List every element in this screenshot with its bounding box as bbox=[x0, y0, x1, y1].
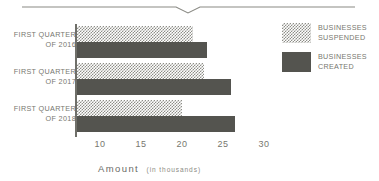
category-label-line1: First Quarter bbox=[14, 67, 76, 76]
plot-area bbox=[77, 24, 299, 136]
legend-label-line2: Created bbox=[318, 62, 367, 72]
x-axis-caption: Amount (in thousands) bbox=[0, 158, 299, 176]
x-tick-30: 30 bbox=[249, 139, 279, 149]
x-tick-20: 20 bbox=[167, 139, 197, 149]
category-label-line2: of 2018 bbox=[0, 114, 76, 124]
bar-created-2016 bbox=[77, 42, 207, 58]
x-tick-10: 10 bbox=[85, 139, 115, 149]
legend-label-created: Businesses Created bbox=[318, 52, 367, 71]
x-tick-15: 15 bbox=[126, 139, 156, 149]
category-label-line1: First Quarter bbox=[14, 104, 76, 113]
category-label-2018: First Quarter of 2018 bbox=[0, 104, 76, 123]
legend-swatch-suspended-icon bbox=[282, 23, 311, 43]
x-axis-caption-main: Amount bbox=[98, 163, 139, 174]
x-tick-25: 25 bbox=[208, 139, 238, 149]
legend-label-line2: Suspended bbox=[318, 33, 367, 43]
category-label-line2: of 2017 bbox=[0, 77, 76, 87]
category-label-line2: of 2016 bbox=[0, 40, 76, 50]
legend-label-suspended: Businesses Suspended bbox=[318, 23, 367, 42]
bar-chart: First Quarter of 2016 First Quarter of 2… bbox=[0, 0, 379, 181]
bar-created-2018 bbox=[77, 116, 235, 132]
legend-item-created: Businesses Created bbox=[282, 52, 377, 72]
category-label-2017: First Quarter of 2017 bbox=[0, 67, 76, 86]
chart-legend: Businesses Suspended Businesses Created bbox=[282, 23, 377, 81]
legend-item-suspended: Businesses Suspended bbox=[282, 23, 377, 43]
bar-suspended-2017 bbox=[77, 63, 204, 79]
bar-suspended-2018 bbox=[77, 100, 182, 116]
bar-created-2017 bbox=[77, 79, 231, 95]
legend-label-line1: Businesses bbox=[318, 52, 367, 61]
legend-swatch-created-icon bbox=[282, 52, 311, 72]
bar-suspended-2016 bbox=[77, 26, 193, 42]
category-label-2016: First Quarter of 2016 bbox=[0, 30, 76, 49]
legend-label-line1: Businesses bbox=[318, 23, 367, 32]
x-axis-caption-sub: (in thousands) bbox=[147, 166, 201, 173]
category-label-line1: First Quarter bbox=[14, 30, 76, 39]
